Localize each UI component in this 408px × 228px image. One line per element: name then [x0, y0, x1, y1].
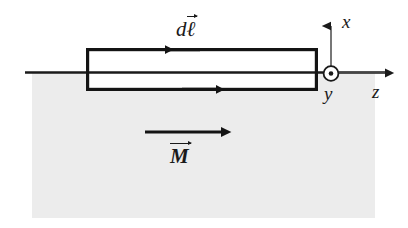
- dl-base-letter: d: [176, 17, 187, 41]
- dl-vector-symbol: ℓ: [187, 19, 196, 40]
- y-axis-label: y: [324, 84, 332, 103]
- dl-ell-symbol: ℓ: [187, 17, 196, 41]
- M-letter: M: [170, 144, 189, 168]
- z-axis-label: z: [372, 82, 379, 101]
- vector-arrow-overbar: [170, 143, 191, 144]
- y-axis-dot-icon: [329, 71, 334, 76]
- magnetization-vector-label: M: [170, 146, 189, 167]
- vector-arrow-overbar: [187, 16, 198, 17]
- M-vector-symbol: M: [170, 146, 189, 167]
- dl-vector-label: dℓ: [176, 19, 195, 40]
- amperian-loop-interior: [88, 50, 317, 90]
- physics-diagram: dℓ M x y z: [0, 0, 408, 228]
- x-axis-label: x: [342, 12, 350, 31]
- diagram-canvas: [0, 0, 408, 228]
